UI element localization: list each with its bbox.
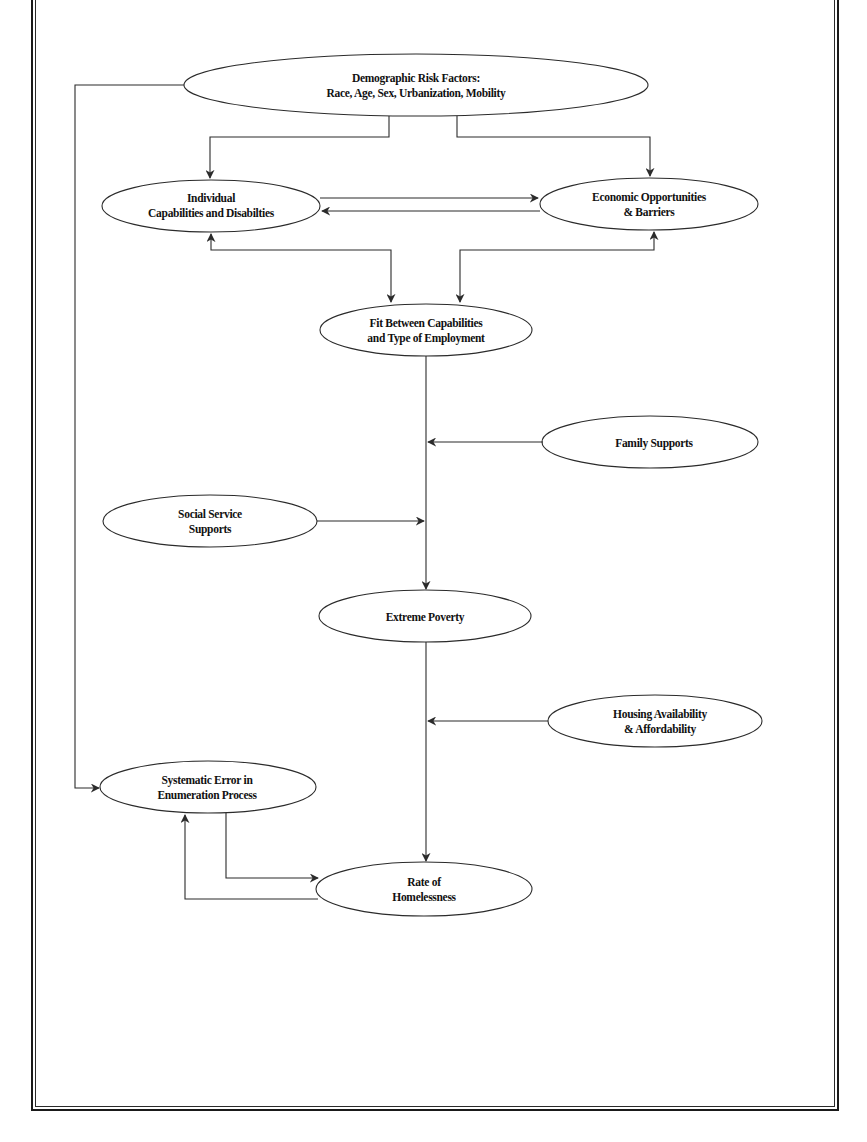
- node-economic-line1: Economic Opportunities: [592, 190, 706, 205]
- node-individual-line2: Capabilities and Disabilties: [148, 206, 274, 221]
- node-systematic: Systematic Error in Enumeration Process: [157, 773, 256, 803]
- node-homelessness-line1: Rate of: [392, 875, 455, 890]
- node-systematic-line2: Enumeration Process: [157, 788, 256, 803]
- node-individual: Individual Capabilities and Disabilties: [148, 191, 274, 221]
- node-family-line1: Family Supports: [615, 436, 693, 451]
- node-fit-line1: Fit Between Capabilities: [367, 316, 484, 331]
- edge-economic-fit: [460, 232, 654, 302]
- node-social-line1: Social Service: [178, 507, 242, 522]
- edge-systematic-homelessness: [226, 813, 318, 878]
- node-economic-line2: & Barriers: [592, 205, 706, 220]
- node-demographic: Demographic Risk Factors: Race, Age, Sex…: [327, 71, 506, 101]
- node-homelessness-line2: Homelessness: [392, 890, 455, 905]
- flow-diagram: [0, 0, 867, 1142]
- edge-demographic-individual: [210, 116, 389, 178]
- node-housing-line1: Housing Availability: [613, 707, 707, 722]
- node-housing: Housing Availability & Affordability: [613, 707, 707, 737]
- node-social: Social Service Supports: [178, 507, 242, 537]
- node-demographic-subtitle: Race, Age, Sex, Urbanization, Mobility: [327, 86, 506, 101]
- node-social-line2: Supports: [178, 522, 242, 537]
- node-homelessness: Rate of Homelessness: [392, 875, 455, 905]
- node-fit-line2: and Type of Employment: [367, 331, 484, 346]
- node-economic: Economic Opportunities & Barriers: [592, 190, 706, 220]
- node-fit: Fit Between Capabilities and Type of Emp…: [367, 316, 484, 346]
- node-housing-line2: & Affordability: [613, 722, 707, 737]
- node-individual-line1: Individual: [148, 191, 274, 206]
- node-poverty: Extreme Poverty: [386, 610, 465, 625]
- node-demographic-title: Demographic Risk Factors:: [327, 71, 506, 86]
- node-systematic-line1: Systematic Error in: [157, 773, 256, 788]
- edge-homelessness-systematic: [185, 815, 318, 899]
- edge-demographic-economic: [457, 116, 650, 176]
- edge-individual-fit: [211, 234, 391, 302]
- node-family: Family Supports: [615, 436, 693, 451]
- node-poverty-line1: Extreme Poverty: [386, 610, 465, 625]
